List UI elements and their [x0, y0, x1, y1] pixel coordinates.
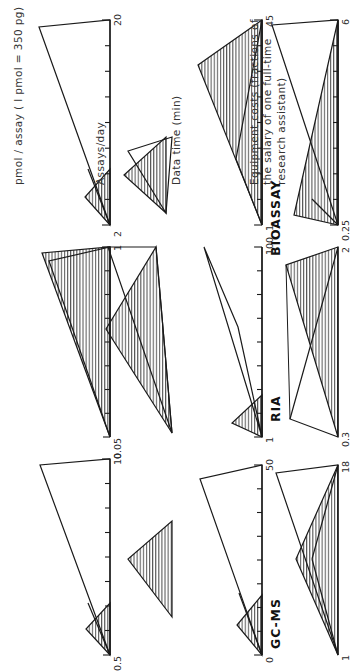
- row-label-throughput: Assays/day: [94, 122, 107, 185]
- plot-cost-ria: [272, 237, 344, 437]
- tick-sensitivity-gc-ms-low: 0.5: [112, 656, 123, 671]
- row-label-sensitivity: pmol / assay ( l pmol = 350 pg): [12, 7, 25, 185]
- tick-sensitivity-bioassay-high: 20: [112, 14, 123, 26]
- tick-cost-ria-low: 0.3: [340, 432, 351, 447]
- plot-throughput-gc-ms: [118, 497, 178, 617]
- panel-throughput-gc-ms: [118, 497, 178, 617]
- plot-cost-gc-ms: [272, 455, 344, 655]
- tick-data-time-bioassay-low: 1: [264, 225, 275, 231]
- plot-throughput-ria: [100, 233, 178, 433]
- tick-data-time-ria-low: 1: [264, 437, 275, 443]
- panel-cost-bioassay: 0.25 6: [268, 10, 344, 225]
- panel-throughput-bioassay: [116, 83, 178, 213]
- panel-sensitivity-bioassay: 2 20: [36, 10, 116, 225]
- tick-cost-gc-ms-low: 1: [340, 655, 351, 661]
- plot-data-time-gc-ms: [192, 455, 270, 655]
- panel-cost-gc-ms: 1 18: [272, 455, 344, 655]
- tick-cost-ria-high: 2: [340, 247, 351, 253]
- panel-data-time-ria: 1 100: [192, 237, 270, 437]
- tick-data-time-gc-ms-low: 0: [264, 657, 275, 663]
- tick-cost-bioassay-low: 0.25: [340, 220, 351, 241]
- panel-data-time-gc-ms: 0 50: [192, 455, 270, 655]
- plot-sensitivity-gc-ms: [36, 445, 116, 655]
- panel-cost-ria: 0.3 2: [272, 237, 344, 437]
- tick-cost-gc-ms-high: 18: [340, 461, 351, 473]
- row-label-data-time: Data time (min): [170, 96, 183, 185]
- plot-cost-bioassay: [268, 10, 344, 225]
- plot-throughput-bioassay: [116, 83, 178, 213]
- plot-sensitivity-bioassay: [36, 10, 116, 225]
- panel-sensitivity-gc-ms: 0.5 10: [36, 445, 116, 655]
- plot-data-time-ria: [192, 237, 270, 437]
- tick-sensitivity-ria-low: 0.05: [112, 438, 123, 459]
- panel-throughput-ria: [100, 233, 178, 433]
- tick-cost-bioassay-high: 6: [340, 19, 351, 25]
